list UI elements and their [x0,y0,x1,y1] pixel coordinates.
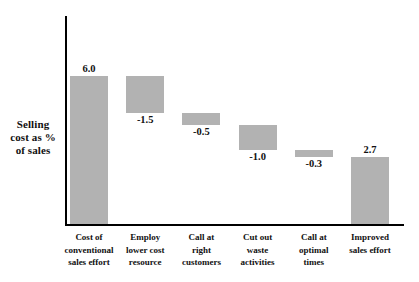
category-label-6-line-2: sales effort [336,244,404,257]
category-label-5-line-3: times [280,256,348,269]
bar-3 [182,113,220,125]
bar-value-label-6: 2.7 [339,144,401,155]
waterfall-chart: Selling cost as % of sales 6.0Cost ofcon… [0,0,419,282]
bar-value-label-2: -1.5 [114,114,176,125]
category-label-6-line-1: Improved [336,231,404,244]
bar-2 [126,76,164,113]
bar-1 [70,76,108,224]
plot-area: 6.0Cost ofconventionalsales effort-1.5Em… [0,0,419,282]
bar-value-label-4: -1.0 [227,151,289,162]
bar-4 [239,125,277,150]
bar-value-label-1: 6.0 [58,63,120,74]
bar-6 [351,157,389,224]
bar-value-label-5: -0.3 [283,158,345,169]
bar-5 [295,150,333,157]
category-label-6: Improvedsales effort [336,231,404,256]
bar-value-label-3: -0.5 [170,126,232,137]
